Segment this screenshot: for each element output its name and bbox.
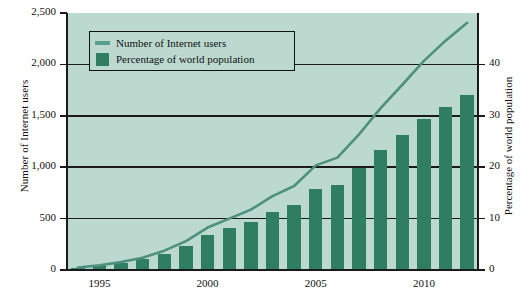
y-axis-right-tickmark <box>478 166 485 168</box>
legend-item-internet-users: Number of Internet users <box>95 35 287 51</box>
x-axis-tick-label: 2005 <box>286 277 346 289</box>
legend-label-internet-users: Number of Internet users <box>116 37 226 49</box>
x-axis-line <box>66 269 479 271</box>
y-axis-right-title: Percentage of world population <box>502 46 514 246</box>
chart-legend: Number of Internet users Percentage of w… <box>89 31 295 71</box>
y-axis-left-tickmark <box>60 269 67 271</box>
y-axis-right-line <box>477 13 479 271</box>
y-axis-left-tickmark <box>60 115 67 117</box>
y-axis-left-title: Number of Internet users <box>18 36 30 236</box>
y-axis-right-tickmark <box>478 115 485 117</box>
x-axis-tick-label: 1995 <box>69 277 129 289</box>
y-axis-right-tick-label: 0 <box>489 262 519 274</box>
x-axis-tick-label: 2000 <box>178 277 238 289</box>
chart-figure: 05001,0001,5002,0002,500 010203040 19952… <box>0 0 528 305</box>
y-axis-right-tickmark <box>478 64 485 66</box>
legend-box-swatch-icon <box>96 53 109 66</box>
y-axis-left-tickmark <box>60 218 67 220</box>
y-axis-left-line <box>66 13 68 271</box>
legend-line-swatch-icon <box>95 41 110 46</box>
y-axis-left-tick-label: 0 <box>11 262 56 274</box>
y-axis-right-tickmark <box>478 218 485 220</box>
y-axis-left-tick-label: 2,500 <box>11 5 56 17</box>
y-axis-left-tickmark <box>60 12 67 14</box>
x-axis-tick-label: 2010 <box>394 277 454 289</box>
y-axis-right-tickmark <box>478 269 485 271</box>
y-axis-left-tickmark <box>60 166 67 168</box>
y-axis-left-tickmark <box>60 64 67 66</box>
legend-item-world-population: Percentage of world population <box>95 51 287 67</box>
legend-label-world-population: Percentage of world population <box>116 53 254 65</box>
